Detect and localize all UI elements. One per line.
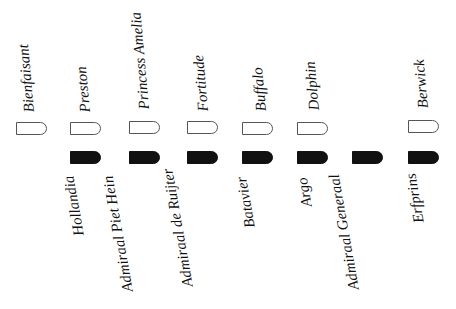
label-erfprins: Erfprins: [403, 172, 426, 224]
label-dolphin: Dolphin: [303, 61, 322, 111]
label-argo: Argo: [295, 176, 315, 208]
label-buffalo: Buffalo: [250, 67, 269, 112]
ship-bienfaisant: [16, 122, 47, 135]
ship-admiraal-piet-hein: [129, 151, 160, 164]
ship-argo: [297, 151, 328, 164]
ship-preston: [70, 122, 101, 135]
label-preston: Preston: [74, 66, 93, 113]
label-batavier: Batavier: [234, 176, 258, 229]
ship-hollandia: [70, 151, 101, 164]
ship-berwick: [408, 120, 439, 133]
label-hollandia: Hollandia: [61, 174, 86, 237]
ship-admiraal-de-ruijter: [187, 151, 218, 164]
label-admiraal-piet-hein: Admiraal Piet Hein: [101, 175, 136, 293]
label-fortitude: Fortitude: [191, 54, 211, 112]
label-bienfaisant: Bienfaisant: [16, 44, 37, 113]
ship-admiraal-generaal: [352, 151, 383, 164]
label-admiraal-generaal: Admiraal Generaal: [327, 173, 362, 291]
ship-dolphin: [297, 122, 328, 135]
ship-batavier: [242, 151, 273, 164]
ship-erfprins: [408, 151, 439, 164]
ship-fortitude: [187, 121, 218, 134]
label-admiraal-de-ruijter: Admiraal de Ruijter: [160, 167, 196, 288]
ship-princess-amelia: [129, 121, 160, 134]
ship-buffalo: [242, 122, 273, 135]
label-princess-amelia: Princess Amelia: [128, 11, 151, 110]
label-berwick: Berwick: [412, 59, 431, 109]
